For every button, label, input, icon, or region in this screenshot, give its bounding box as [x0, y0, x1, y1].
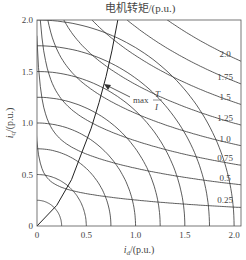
y-axis-ticks: 00.51.01.52.0: [22, 15, 34, 231]
torque-contour: [52, 0, 244, 126]
torque-contour: [35, 109, 244, 207]
x-tick-label: 1.5: [179, 230, 191, 240]
contour-labels: 0.250.50.751.01.251.51.752.0: [217, 49, 233, 205]
svg-text:max: max: [133, 95, 149, 105]
torque-contour-chart: 电机转矩/(p.u.) 00.51.01.52.0 00.51.01.52.0 …: [0, 0, 246, 260]
y-tick-label: 1.0: [22, 118, 34, 128]
torque-contour: [44, 0, 244, 146]
contour-label: 0.75: [217, 153, 233, 163]
plot-curves: [35, 0, 244, 226]
plot-frame: [37, 20, 241, 226]
svg-text:I: I: [154, 102, 159, 112]
svg-text:T: T: [155, 89, 161, 99]
x-tick-label: 0: [35, 230, 40, 240]
contour-label: 1.25: [217, 113, 233, 123]
x-tick-label: 1.0: [130, 230, 142, 240]
max-t-over-i-annotation: max T I: [104, 84, 162, 112]
y-tick-label: 1.5: [22, 67, 34, 77]
x-axis-label: id/(p.u.): [124, 244, 155, 257]
x-tick-label: 2.0: [228, 230, 240, 240]
torque-contour: [37, 36, 244, 185]
y-axis-label: iq/(p.u.): [4, 108, 17, 139]
current-circle: [37, 20, 234, 226]
y-tick-label: 2.0: [22, 15, 34, 25]
y-tick-label: 0.5: [22, 170, 34, 180]
x-tick-label: 0.5: [81, 230, 93, 240]
contour-label: 2.0: [219, 49, 231, 59]
contour-label: 1.5: [219, 92, 231, 102]
contour-label: 0.25: [217, 195, 233, 205]
contour-label: 0.5: [219, 173, 231, 183]
contour-label: 1.0: [219, 134, 231, 144]
chart-title: 电机转矩/(p.u.): [105, 1, 176, 15]
y-tick-label: 0: [29, 221, 34, 231]
contour-label: 1.75: [217, 72, 233, 82]
x-axis-ticks: 00.51.01.52.0: [35, 230, 240, 240]
